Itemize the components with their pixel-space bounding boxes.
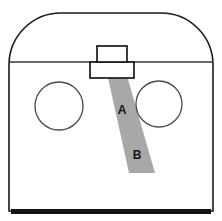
diagram-canvas: A B [0, 0, 222, 221]
band-label-a: A [118, 103, 127, 117]
upper-tab-box [97, 46, 127, 62]
enclosure-diagram: A B [0, 0, 222, 221]
enclosure-body-fill [9, 13, 213, 211]
lower-flange-box [90, 62, 134, 78]
base-bar [11, 209, 211, 214]
band-label-b: B [133, 148, 142, 162]
